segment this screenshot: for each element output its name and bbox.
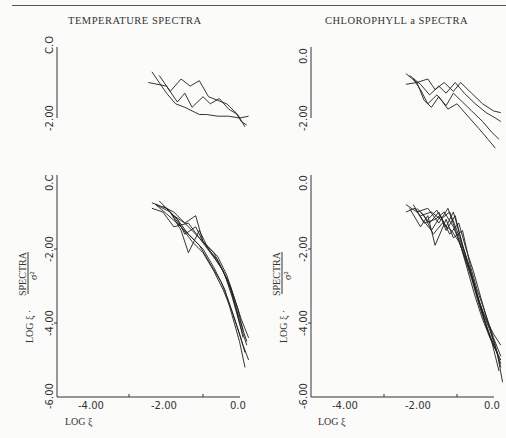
temperature-lower-axes: 0.C -2.00 -4.00 -6.00 -4.00 -2.00 0.0 LO… bbox=[17, 174, 246, 428]
spectrum-curve bbox=[170, 212, 245, 353]
y-tick-label: -6.00 bbox=[298, 383, 309, 409]
spectrum-curve bbox=[413, 205, 501, 368]
y-axis-label: LOG ξ · bbox=[278, 310, 290, 343]
x-tick-label: -2.00 bbox=[405, 400, 431, 411]
temperature-upper-axis: C.O -2.00 bbox=[44, 36, 57, 131]
y-tick-label: -4.00 bbox=[298, 310, 309, 336]
y-tick-label: -4.00 bbox=[44, 310, 55, 336]
x-tick-label: -2.00 bbox=[151, 400, 177, 411]
x-tick-label: -4.00 bbox=[332, 400, 358, 411]
y-tick-label: -2.00 bbox=[44, 236, 55, 262]
spectrum-curve bbox=[406, 83, 495, 149]
spectra-figure: C.O -2.00 0.0 -2.00 0.C -2.00 -4.00 -6.0… bbox=[0, 0, 506, 438]
x-tick-label: 0.0 bbox=[230, 400, 246, 411]
y-tick-label: 0.0 bbox=[298, 175, 309, 191]
y-axis-label: LOG ξ · bbox=[24, 310, 36, 343]
chlorophyll-lower-axes: 0.0 -2.00 -4.00 -6.00 -4.00 -2.00 0.0 LO… bbox=[271, 175, 500, 428]
x-axis-label: LOG ξ bbox=[65, 416, 93, 428]
y-tick-label: -2.00 bbox=[298, 236, 309, 262]
chlorophyll-upper-axis: 0.0 -2.00 bbox=[298, 47, 311, 131]
y-axis-fraction-numerator: SPECTRA bbox=[271, 251, 282, 296]
y-axis-fraction-denominator: σ² bbox=[28, 272, 39, 280]
spectrum-curve bbox=[148, 83, 245, 127]
x-axis-label: LOG ξ bbox=[318, 416, 346, 428]
spectrum-curve bbox=[156, 205, 245, 368]
y-axis-fraction-numerator: SPECTRA bbox=[17, 251, 28, 296]
spectrum-curve bbox=[156, 205, 244, 338]
spectrum-curve bbox=[167, 208, 249, 360]
y-tick-label: -2.00 bbox=[44, 105, 55, 131]
y-tick-label: 0.0 bbox=[298, 48, 309, 64]
spectrum-curve bbox=[152, 208, 243, 330]
y-tick-label: -6.00 bbox=[44, 383, 55, 409]
x-tick-label: -4.00 bbox=[78, 400, 104, 411]
spectra-curves bbox=[148, 72, 502, 382]
y-axis-fraction-denominator: σ² bbox=[282, 272, 293, 280]
y-tick-label: -2.00 bbox=[298, 105, 309, 131]
y-tick-label: 0.C bbox=[44, 174, 55, 191]
y-tick-label: C.O bbox=[44, 36, 55, 54]
spectrum-curve bbox=[152, 203, 247, 345]
x-tick-label: 0.0 bbox=[484, 400, 500, 411]
